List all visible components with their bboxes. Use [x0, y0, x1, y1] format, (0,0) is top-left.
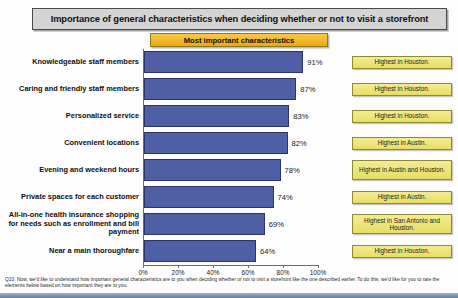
annotation-callout: Highest in Houston.	[352, 56, 452, 69]
x-axis-tick-label: 20%	[172, 269, 185, 276]
x-axis-tick-label: 100%	[310, 269, 326, 276]
bar-value-label: 87%	[300, 85, 315, 94]
annotation-callout: Highest in Austin.	[352, 191, 452, 204]
bar-row: 69%	[144, 213, 284, 235]
annotation-callout: Highest in Austin and Houston.	[352, 160, 452, 180]
category-label: Evening and weekend hours	[8, 159, 143, 181]
x-axis-tick-label: 60%	[242, 269, 255, 276]
bar-row: 82%	[144, 132, 307, 154]
bar-chart-plot-area: 91%87%83%82%78%74%69%64%	[143, 49, 318, 265]
bar-value-label: 91%	[307, 58, 322, 67]
bottom-accent-strip	[0, 293, 458, 298]
bar-row: 64%	[144, 240, 275, 262]
annotation-callout: Highest in San Antonio and Houston.	[352, 214, 452, 234]
bar[interactable]	[144, 51, 303, 73]
category-label: Near a main thoroughfare	[8, 240, 143, 262]
annotation-text: Highest in Houston.	[373, 112, 432, 119]
x-axis-tick	[248, 265, 249, 268]
category-label: All-in-one health insurance shopping for…	[8, 213, 143, 235]
annotation-text: Highest in Houston.	[373, 58, 432, 65]
bar-row: 91%	[144, 51, 322, 73]
x-axis-line	[143, 265, 319, 266]
annotation-text: Highest in Austin.	[376, 139, 429, 146]
bar-value-label: 74%	[278, 193, 293, 202]
bar-value-label: 64%	[260, 247, 275, 256]
category-label: Knowledgeable staff members	[8, 51, 143, 73]
annotation-callout: Highest in Houston.	[352, 245, 452, 258]
annotation-text: Highest in Houston.	[373, 85, 432, 92]
annotation-callout: Highest in Austin.	[352, 137, 452, 150]
bar-row: 74%	[144, 186, 293, 208]
annotation-callout: Highest in Houston.	[352, 83, 452, 96]
bar[interactable]	[144, 186, 274, 208]
category-label: Personalized service	[8, 105, 143, 127]
subtitle-text: Most important characteristics	[184, 36, 295, 45]
bar[interactable]	[144, 78, 296, 100]
x-axis-tick	[283, 265, 284, 268]
x-axis-tick	[143, 265, 144, 268]
slide-canvas: Importance of general characteristics wh…	[0, 0, 458, 298]
bar-row: 78%	[144, 159, 300, 181]
x-axis-tick-label: 0%	[138, 269, 147, 276]
bar-row: 87%	[144, 78, 315, 100]
annotation-text: Highest in Austin and Houston.	[357, 166, 447, 173]
x-axis-tick	[318, 265, 319, 268]
annotation-text: Highest in Austin.	[376, 193, 429, 200]
x-axis-tick-label: 80%	[277, 269, 290, 276]
annotation-callouts: Highest in Houston.Highest in Houston.Hi…	[352, 49, 452, 265]
bar-value-label: 83%	[293, 112, 308, 121]
subtitle-banner: Most important characteristics	[150, 33, 328, 47]
annotation-text: Highest in San Antonio and Houston.	[353, 217, 451, 232]
bar[interactable]	[144, 105, 289, 127]
bar[interactable]	[144, 213, 265, 235]
x-axis-tick	[178, 265, 179, 268]
bar-value-label: 69%	[269, 220, 284, 229]
bar[interactable]	[144, 240, 256, 262]
bar-value-label: 82%	[292, 139, 307, 148]
category-label: Private spaces for each customer	[8, 186, 143, 208]
annotation-callout: Highest in Houston.	[352, 110, 452, 123]
page-title-text: Importance of general characteristics wh…	[51, 14, 429, 24]
category-label: Caring and friendly staff members	[8, 78, 143, 100]
page-title: Importance of general characteristics wh…	[32, 8, 447, 30]
footnote-text: Q10. Now, we'd like to understand how im…	[5, 277, 453, 289]
bar[interactable]	[144, 159, 281, 181]
bar[interactable]	[144, 132, 288, 154]
category-axis-labels: Knowledgeable staff membersCaring and fr…	[4, 49, 143, 265]
x-axis-tick	[213, 265, 214, 268]
bar-value-label: 78%	[285, 166, 300, 175]
x-axis-tick-label: 40%	[207, 269, 220, 276]
annotation-text: Highest in Houston.	[373, 247, 432, 254]
bar-row: 83%	[144, 105, 308, 127]
category-label: Convenient locations	[8, 132, 143, 154]
